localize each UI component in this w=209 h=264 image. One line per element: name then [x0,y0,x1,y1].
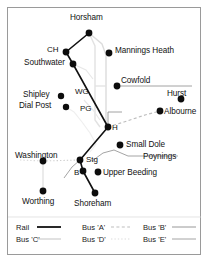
label-small-dole: Small Dole [126,140,165,149]
dot-stg [77,157,84,164]
dot-b [80,168,87,175]
label-mannings-heath: Mannings Heath [115,46,174,55]
dot-worthing [40,188,47,195]
label-wg: WG [75,87,89,96]
label-southwater: Southwater [24,58,65,67]
dot-albourne [157,108,164,115]
bus-d-route [20,160,80,191]
dot-small-dole [117,142,124,149]
dot-southwater [70,61,77,68]
legend-label-bus-d: Bus 'D' [82,235,106,244]
legend-label-bus-a: Bus 'A' [82,223,105,232]
dot-upper-beeding [95,169,102,176]
label-upper-beeding: Upper Beeding [103,168,157,177]
label-ch: CH [47,45,59,54]
label-poynings: Poynings [143,152,176,161]
label-worthing: Worthing [22,197,54,206]
label-b: B [74,168,79,177]
dot-shoreham [92,190,99,197]
dot-horsham [86,30,93,37]
legend-label-bus-c: Bus 'C' [16,235,40,244]
dot-shipley [58,93,64,99]
legend-label-bus-e: Bus 'E' [143,235,166,244]
dot-mannings-heath [106,50,113,57]
legend-label-bus-b: Bus 'B' [143,223,166,232]
rail-route [66,33,108,193]
dot-cowfold [114,83,121,90]
label-cowfold: Cowfold [121,76,150,85]
label-pg: PG [80,104,92,113]
label-h: H [112,123,118,132]
label-shipley: Shipley [23,90,50,99]
label-washington: Washington [15,151,57,160]
label-hurst: Hurst [167,89,186,98]
legend-sample-lines [37,227,196,239]
label-horsham: Horsham [70,13,103,22]
dot-h [105,124,112,131]
dot-dial-post [63,104,69,110]
dot-ch [63,49,70,56]
transport-network-map: Horsham CH Mannings Heath Southwater Cow… [0,0,209,264]
label-stg: Stg [86,155,98,164]
legend-label-rail: Rail [16,223,29,232]
label-albourne: Albourne [164,107,196,116]
label-shoreham: Shoreham [74,199,111,208]
label-dial-post: Dial Post [19,101,51,110]
